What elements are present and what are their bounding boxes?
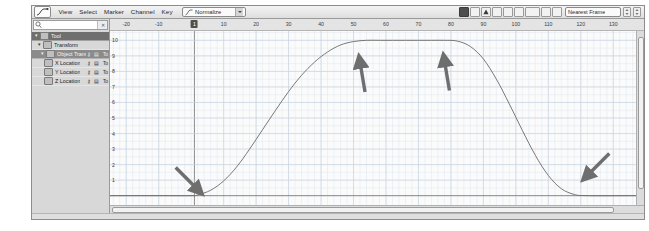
x-tick-label: 130 <box>609 21 618 27</box>
channel-color-swatch <box>44 59 53 67</box>
menu-item-key[interactable]: Key <box>158 6 176 18</box>
horizontal-scrollbar[interactable] <box>110 205 644 213</box>
channel-color-swatch <box>43 41 52 49</box>
channel-panel: ✕ ▾ Tool ▾ Transform ▾ <box>32 19 110 213</box>
key-icon[interactable]: ⚷ <box>86 78 92 84</box>
expander-icon[interactable]: ▾ <box>40 52 45 57</box>
snap-mode-dropdown[interactable]: Nearest Frame <box>565 7 621 17</box>
y-tick-label: 6 <box>112 99 115 105</box>
channel-value: To <box>100 61 108 66</box>
channel-color-swatch <box>44 77 53 85</box>
channel-label: X Location <box>55 60 80 66</box>
y-tick-label: 1 <box>112 177 115 183</box>
x-tick-label: 110 <box>544 21 552 27</box>
key-icon[interactable]: ⚷ <box>86 51 92 57</box>
x-tick-label: -20 <box>122 21 130 27</box>
menu-bar: View Select Marker Channel Key Normalize <box>32 6 644 19</box>
x-tick-label: 100 <box>512 21 521 27</box>
channel-row-z-location[interactable]: Z Location ⚷ ▤ To <box>32 77 109 86</box>
lock-icon[interactable]: ▤ <box>93 69 99 75</box>
key-icon[interactable]: ⚷ <box>86 60 92 66</box>
tangent-linear-button[interactable] <box>525 7 540 17</box>
warning-button[interactable] <box>481 7 491 17</box>
key-icon[interactable]: ⚷ <box>86 69 92 75</box>
graph-area: -20-101102030405060708090100110120130 10… <box>110 19 644 213</box>
menu-item-marker[interactable]: Marker <box>101 6 128 18</box>
channel-row-icons: ⚷ ▤ To <box>86 69 108 75</box>
horizontal-scrollbar-thumb[interactable] <box>112 207 614 213</box>
menu-item-channel[interactable]: Channel <box>127 6 158 18</box>
vertical-scrollbar-thumb[interactable] <box>638 37 644 189</box>
chevron-down-icon[interactable] <box>235 8 243 16</box>
y-tick-label: 2 <box>112 162 115 168</box>
channel-value: To <box>100 52 108 57</box>
y-tick-label: 10 <box>112 37 118 43</box>
x-tick-label: 60 <box>383 21 389 27</box>
search-input[interactable] <box>42 22 97 28</box>
x-tick-label: 40 <box>318 21 324 27</box>
graph-row: 10987654321 <box>110 31 644 205</box>
lock-icon[interactable]: ▤ <box>93 78 99 84</box>
menu-item-select[interactable]: Select <box>76 6 101 18</box>
expander-icon[interactable]: ▾ <box>34 34 39 39</box>
y-tick-label: 7 <box>112 84 115 90</box>
channel-row-transform[interactable]: ▾ Transform <box>32 41 109 50</box>
lock-icon[interactable]: ▤ <box>93 60 99 66</box>
arrow-annotation-3 <box>444 61 449 91</box>
stats-toggle-button[interactable] <box>459 7 469 17</box>
normalize-dropdown[interactable]: Normalize <box>182 7 246 17</box>
expander-icon[interactable]: ▾ <box>37 43 42 48</box>
y-tick-label: 5 <box>112 115 115 121</box>
clear-icon[interactable]: ✕ <box>97 21 107 29</box>
lock-icon[interactable]: ▤ <box>93 51 99 57</box>
x-tick-label: 70 <box>416 21 422 27</box>
search-icon <box>35 21 42 29</box>
channel-label: Tool <box>51 33 61 39</box>
x-tick-label: 10 <box>221 21 227 27</box>
tangent-auto-button[interactable] <box>492 7 502 17</box>
x-tick-label: 90 <box>481 21 487 27</box>
channel-label: Z Location <box>55 78 80 84</box>
snap-mode-label: Nearest Frame <box>568 9 605 15</box>
key-filter-button[interactable] <box>470 7 480 17</box>
curve-canvas <box>110 31 636 205</box>
tangent-clamped-button[interactable] <box>514 7 524 17</box>
channel-value: To <box>100 79 108 84</box>
normalize-label: Normalize <box>195 9 221 15</box>
channel-row-x-location[interactable]: X Location ⚷ ▤ To <box>32 59 109 68</box>
channel-label: Transform <box>54 42 78 48</box>
x-axis-ruler[interactable]: -20-101102030405060708090100110120130 <box>110 19 644 31</box>
channel-row-icons: ⚷ ▤ To <box>86 60 108 66</box>
y-tick-label: 4 <box>112 131 115 137</box>
x-tick-label: -10 <box>155 21 163 27</box>
curve-plot[interactable]: 10987654321 <box>110 31 636 205</box>
vertical-scrollbar[interactable] <box>636 31 644 205</box>
y-tick-label: 3 <box>112 146 115 152</box>
toolbar-right: Nearest Frame <box>459 7 642 17</box>
menu-item-view[interactable]: View <box>55 6 76 18</box>
x-tick-label: 80 <box>448 21 454 27</box>
x-tick-label: 20 <box>253 21 259 27</box>
playhead-marker[interactable]: 1 <box>191 20 198 28</box>
y-tick-label: 9 <box>112 53 115 59</box>
graph-editor-window: View Select Marker Channel Key Normalize <box>31 5 645 220</box>
channel-row-object-transform[interactable]: ▾ Object Transform ⚷ ▤ To <box>32 50 109 59</box>
snap-stepper-1[interactable] <box>623 7 631 17</box>
channel-color-swatch <box>46 50 55 58</box>
channel-row-y-location[interactable]: Y Location ⚷ ▤ To <box>32 68 109 77</box>
snap-stepper-2[interactable] <box>633 7 641 17</box>
x-tick-label: 120 <box>576 21 585 27</box>
arrow-annotation-2 <box>360 62 365 92</box>
tangent-step-button[interactable] <box>552 7 562 17</box>
channel-row-tool[interactable]: ▾ Tool <box>32 32 109 41</box>
channel-label: Y Location <box>55 69 80 75</box>
channel-color-swatch <box>40 32 49 40</box>
tangent-flat-button[interactable] <box>541 7 551 17</box>
channel-search[interactable]: ✕ <box>33 20 108 30</box>
channel-tree: ▾ Tool ▾ Transform ▾ Object Transform <box>32 31 109 213</box>
x-tick-label: 30 <box>286 21 292 27</box>
y-tick-label: 8 <box>112 68 115 74</box>
fcurve-icon <box>185 9 193 16</box>
tangent-spline-button[interactable] <box>503 7 513 17</box>
curve-editor-icon[interactable] <box>34 6 51 18</box>
